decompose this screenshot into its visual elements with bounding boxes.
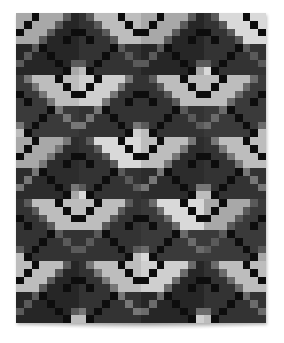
quilt-patch [250,129,258,137]
quilt-patch [118,122,126,130]
quilt-patch [63,75,71,83]
quilt-patch [188,230,196,238]
quilt-patch [47,145,55,153]
quilt-patch [71,83,79,91]
quilt-patch [118,60,126,68]
quilt-patch [250,222,258,230]
quilt-patch [118,44,126,52]
quilt-patch [16,98,24,106]
quilt-patch [188,284,196,292]
quilt-patch [79,300,87,308]
quilt-patch [133,153,141,161]
quilt-patch [180,184,188,192]
quilt-patch [125,13,133,21]
quilt-patch [102,191,110,199]
quilt-patch [157,83,165,91]
quilt-patch [164,253,172,261]
quilt-patch [55,184,63,192]
quilt-patch [188,21,196,29]
quilt-patch [24,238,32,246]
quilt-patch [24,114,32,122]
quilt-patch [211,269,219,277]
quilt-patch [211,98,219,106]
quilt-patch [157,238,165,246]
quilt-patch [94,60,102,68]
quilt-patch [39,91,47,99]
quilt-patch [164,44,172,52]
quilt-patch [79,60,87,68]
quilt-patch [204,129,212,137]
quilt-patch [102,60,110,68]
quilt-patch [172,122,180,130]
quilt-patch [133,106,141,114]
quilt-patch [204,269,212,277]
quilt-patch [125,106,133,114]
quilt-patch [188,60,196,68]
quilt-patch [219,284,227,292]
quilt-patch [219,238,227,246]
quilt-patch [24,67,32,75]
quilt-patch [94,153,102,161]
quilt-patch [172,98,180,106]
quilt-patch [47,269,55,277]
quilt-patch [250,75,258,83]
quilt-patch [24,184,32,192]
quilt-patch [204,253,212,261]
quilt-patch [188,207,196,215]
quilt-patch [24,145,32,153]
quilt-patch [149,44,157,52]
quilt-patch [243,253,251,261]
quilt-patch [180,137,188,145]
quilt-patch [63,269,71,277]
quilt-patch [71,184,79,192]
quilt-patch [47,246,55,254]
quilt-patch [196,137,204,145]
quilt-patch [196,230,204,238]
quilt-patch [47,129,55,137]
quilt-patch [118,284,126,292]
quilt-patch [235,129,243,137]
quilt-patch [188,129,196,137]
quilt-patch [71,168,79,176]
quilt-patch [94,98,102,106]
quilt-patch [141,207,149,215]
quilt-patch [141,98,149,106]
quilt-patch [55,106,63,114]
quilt-patch [219,269,227,277]
quilt-patch [47,67,55,75]
quilt-patch [102,52,110,60]
quilt-patch [39,308,47,316]
quilt-patch [32,21,40,29]
quilt-patch [94,269,102,277]
quilt-patch [32,52,40,60]
quilt-patch [86,160,94,168]
quilt-patch [125,238,133,246]
quilt-patch [63,261,71,269]
quilt-patch [149,13,157,21]
quilt-patch [164,98,172,106]
quilt-patch [47,308,55,316]
quilt-patch [32,168,40,176]
quilt-patch [110,284,118,292]
quilt-patch [125,44,133,52]
quilt-patch [63,308,71,316]
quilt-patch [86,315,94,323]
quilt-patch [24,261,32,269]
quilt-patch [102,44,110,52]
quilt-patch [157,269,165,277]
quilt-patch [172,308,180,316]
quilt-patch [55,122,63,130]
quilt-patch [227,129,235,137]
quilt-patch [86,300,94,308]
quilt-patch [180,106,188,114]
quilt-patch [157,153,165,161]
quilt-patch [125,315,133,323]
quilt-patch [94,222,102,230]
quilt-patch [164,29,172,37]
quilt-patch [86,91,94,99]
quilt-patch [55,300,63,308]
quilt-patch [211,83,219,91]
quilt-patch [16,222,24,230]
quilt-patch [110,261,118,269]
quilt-patch [164,246,172,254]
